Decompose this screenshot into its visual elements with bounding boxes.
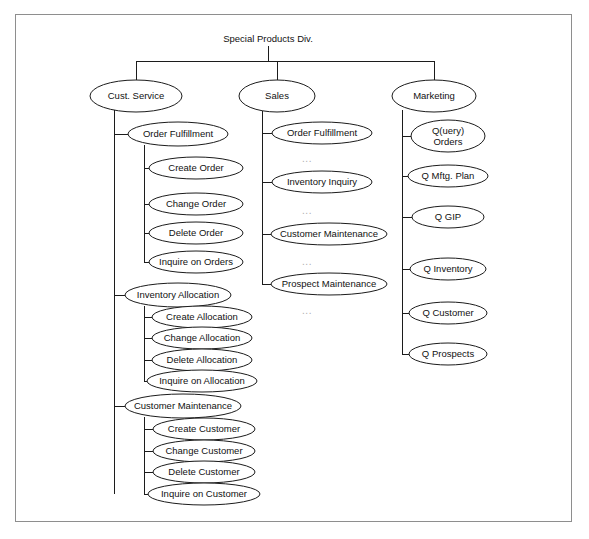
node-inventory-inquiry[interactable]	[272, 171, 372, 193]
node-q-prospects[interactable]	[409, 343, 487, 365]
node-inquire-on-allocation[interactable]	[147, 370, 257, 392]
node-delete-allocation[interactable]	[152, 349, 252, 371]
ellipsis-continuation-mark-4: ...	[302, 305, 312, 316]
node-q-uery-orders[interactable]	[411, 120, 485, 152]
diagram-root: Special Products Div.Cust. ServiceOrder …	[0, 0, 589, 539]
ellipsis-continuation-mark-3: ...	[302, 256, 312, 267]
diagram-connectors-and-nodes	[0, 0, 589, 539]
ellipsis-continuation-mark-1: ...	[302, 153, 312, 164]
node-customer-maintenance[interactable]	[125, 394, 241, 418]
node-change-allocation[interactable]	[152, 327, 252, 349]
root-node-label: Special Products Div.	[223, 33, 313, 44]
ellipsis-continuation-mark-2: ...	[302, 205, 312, 216]
node-inquire-on-customer[interactable]	[148, 483, 260, 505]
node-sales[interactable]	[239, 80, 315, 112]
node-order-fulfillment[interactable]	[128, 122, 228, 146]
node-cust-service[interactable]	[90, 80, 182, 112]
node-inquire-on-orders[interactable]	[149, 251, 243, 273]
node-ellipse-layer	[90, 80, 488, 505]
node-delete-order[interactable]	[149, 222, 243, 244]
node-change-order[interactable]	[149, 193, 243, 215]
node-q-mftg-plan[interactable]	[408, 165, 488, 187]
node-q-gip[interactable]	[412, 206, 484, 228]
node-create-order[interactable]	[149, 157, 243, 179]
node-delete-customer[interactable]	[153, 461, 255, 483]
node-change-customer[interactable]	[153, 440, 255, 462]
node-marketing[interactable]	[392, 80, 476, 112]
node-order-fulfillment[interactable]	[272, 122, 372, 144]
node-create-customer[interactable]	[153, 418, 255, 440]
node-prospect-maintenance[interactable]	[271, 273, 387, 295]
node-customer-maintenance[interactable]	[271, 223, 387, 245]
node-q-inventory[interactable]	[410, 258, 486, 280]
node-create-allocation[interactable]	[152, 306, 252, 328]
node-q-customer[interactable]	[409, 302, 487, 324]
node-inventory-allocation[interactable]	[125, 283, 231, 307]
